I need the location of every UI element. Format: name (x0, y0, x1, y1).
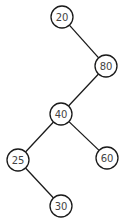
node-label: 80 (100, 61, 113, 72)
tree-node-60: 60 (96, 147, 118, 169)
tree-nodes: 208040256030 (7, 6, 118, 217)
node-label: 60 (101, 153, 114, 164)
tree-node-80: 80 (95, 55, 117, 77)
node-label: 20 (56, 12, 69, 23)
binary-tree-diagram: 208040256030 (0, 0, 128, 224)
node-label: 25 (12, 155, 25, 166)
node-label: 30 (55, 201, 68, 212)
edge-40-60 (69, 122, 99, 151)
edge-40-25 (26, 122, 54, 152)
tree-node-25: 25 (7, 149, 29, 171)
tree-node-30: 30 (50, 195, 72, 217)
node-label: 40 (55, 109, 68, 120)
tree-node-20: 20 (51, 6, 73, 28)
edge-80-40 (69, 74, 99, 106)
edge-20-80 (69, 25, 98, 58)
edge-25-30 (26, 168, 54, 198)
tree-node-40: 40 (50, 103, 72, 125)
